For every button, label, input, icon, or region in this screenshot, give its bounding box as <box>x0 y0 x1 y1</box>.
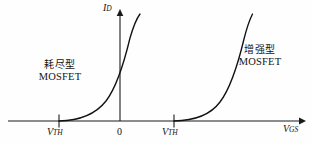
threshold-label-depletion: VTH <box>47 126 63 138</box>
threshold-label-enhancement: VTH <box>162 126 178 138</box>
annotation-depletion-english: MOSFET <box>26 71 94 83</box>
x-axis-label: VGS <box>283 123 298 135</box>
y-axis-label: ID <box>103 2 112 14</box>
x-axis-arrowhead <box>299 118 306 125</box>
threshold-label-enhancement-subscript: TH <box>168 128 178 137</box>
annotation-depletion-mosfet: 耗尽型 MOSFET <box>26 59 94 83</box>
mosfet-transfer-characteristic-figure: ID VGS 0 VTH VTH 耗尽型 MOSFET 增强型 MOSFET <box>0 0 311 145</box>
y-axis-arrowhead <box>117 9 124 16</box>
annotation-enhancement-chinese: 增强型 <box>226 44 294 56</box>
threshold-label-depletion-subscript: TH <box>53 128 63 137</box>
annotation-enhancement-english: MOSFET <box>226 56 294 68</box>
annotation-enhancement-mosfet: 增强型 MOSFET <box>226 44 294 68</box>
y-axis-label-subscript: D <box>106 4 111 13</box>
x-axis-label-subscript: GS <box>289 125 298 134</box>
annotation-depletion-chinese: 耗尽型 <box>26 59 94 71</box>
origin-label: 0 <box>117 126 122 138</box>
